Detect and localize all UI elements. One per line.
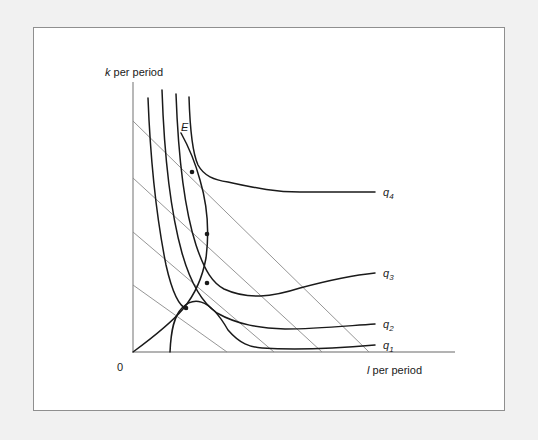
y-axis-label-rest: per period [111,66,164,78]
isoquant-label-q2-subscript: 2 [388,324,394,333]
isoquant-label-q3-subscript: 3 [389,273,394,282]
expansion-path-curve [133,133,208,352]
isoquant-curve-q3 [176,94,375,296]
isocost-line-3 [133,178,322,352]
x-axis-label-rest: per period [369,364,422,376]
y-axis-label: k per period [105,66,163,78]
expansion-path-label: E [181,121,189,133]
isocost-line-4 [133,121,369,352]
tangency-point-q4 [190,170,195,175]
isoquant-label-q4: q4 [383,186,394,201]
isoquant-label-q1-subscript: 1 [389,345,393,354]
isoquant-chart: k per period l per period 0 E q4 q3 q2 q… [0,0,538,440]
origin-label: 0 [117,361,123,373]
isoquant-label-q3: q3 [383,267,394,282]
axis-labels-group: k per period l per period 0 [105,66,422,376]
figure-root: k per period l per period 0 E q4 q3 q2 q… [0,0,538,440]
isoquant-label-q2: q2 [383,318,394,333]
tangency-point-q3 [205,232,210,237]
tangency-point-q2 [205,281,210,286]
isoquant-curve-q4 [189,97,375,192]
isoquant-label-q4-subscript: 4 [389,192,394,201]
isocost-lines-group [133,121,369,352]
expansion-path-group [133,133,208,352]
x-axis-label: l per period [367,364,422,376]
isoquant-labels-group: q4 q3 q2 q1 [383,186,394,354]
isocost-line-2 [133,232,274,352]
tangency-point-q1 [184,306,189,311]
